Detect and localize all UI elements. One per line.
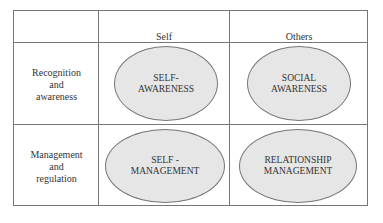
column-header-others: Others <box>230 31 368 42</box>
header-divider <box>14 42 367 43</box>
row-header-recognition: Recognition and awareness <box>14 67 99 103</box>
row-header-management: Management and regulation <box>14 149 99 185</box>
relationship-management-ellipse: RELATIONSHIP MANAGEMENT <box>239 129 357 203</box>
row-divider <box>14 124 367 125</box>
social-awareness-label: SOCIAL AWARENESS <box>271 73 327 95</box>
self-management-ellipse: SELF - MANAGEMENT <box>105 129 225 203</box>
quadrant-table: Self Others Recognition and awareness Ma… <box>13 10 368 206</box>
self-awareness-label: SELF- AWARENESS <box>138 73 194 95</box>
column-header-self: Self <box>99 31 229 42</box>
social-awareness-ellipse: SOCIAL AWARENESS <box>247 46 351 121</box>
relationship-management-label: RELATIONSHIP MANAGEMENT <box>264 155 333 177</box>
self-management-label: SELF - MANAGEMENT <box>131 155 200 177</box>
self-awareness-ellipse: SELF- AWARENESS <box>114 46 218 121</box>
